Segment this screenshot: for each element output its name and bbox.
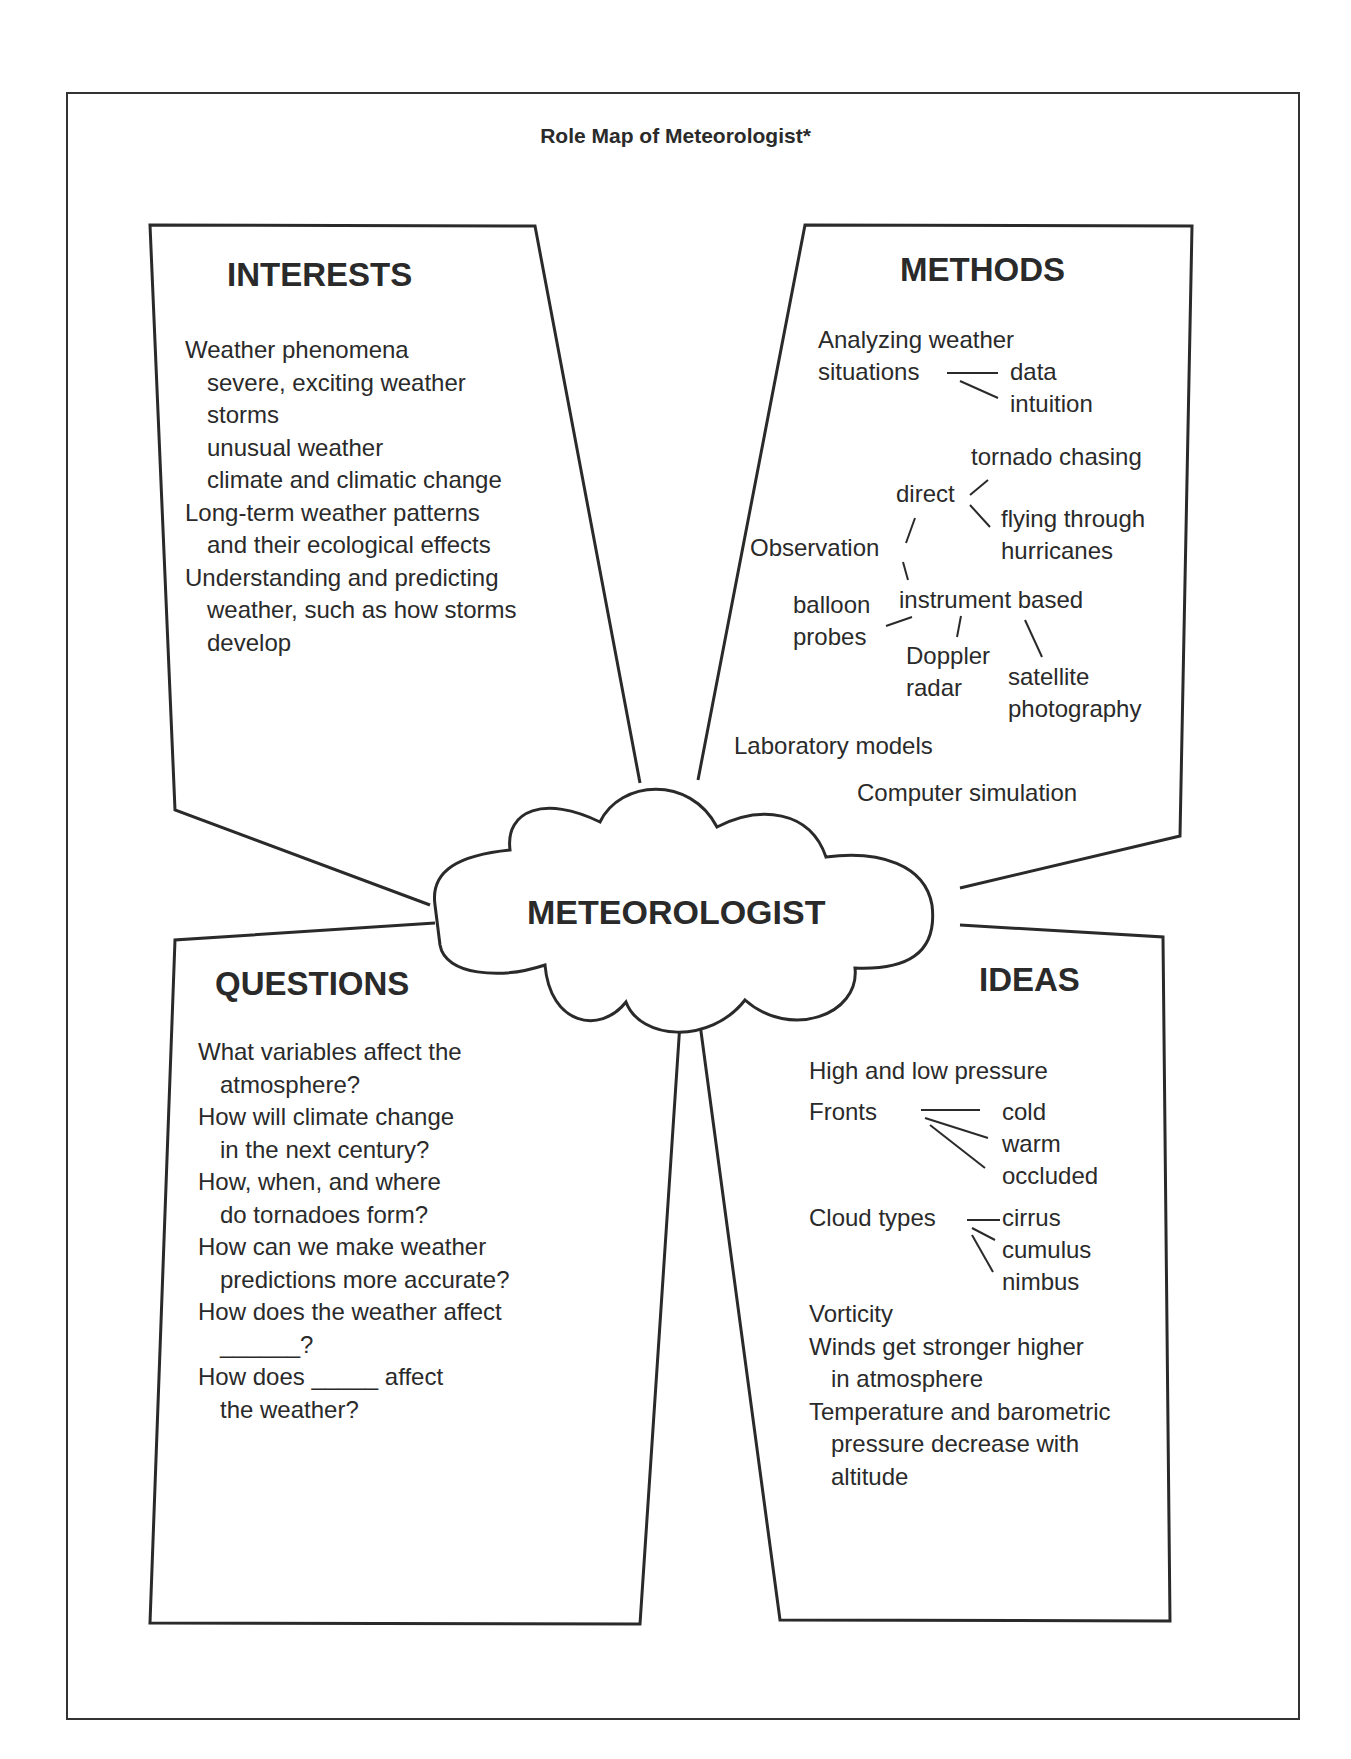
interests-line: develop: [185, 627, 516, 660]
methods-satellite-1: satellite: [1008, 661, 1089, 694]
methods-flying-1: flying through: [1001, 503, 1145, 536]
interests-heading: INTERESTS: [227, 256, 412, 294]
ideas-occluded: occluded: [1002, 1160, 1098, 1193]
ideas-list: VorticityWinds get stronger higherin atm…: [809, 1298, 1110, 1493]
interests-line: Understanding and predicting: [185, 562, 516, 595]
methods-data: data: [1010, 356, 1057, 389]
interests-line: unusual weather: [185, 432, 516, 465]
ideas-cloud-types: Cloud types: [809, 1202, 936, 1235]
methods-balloon-1: balloon: [793, 589, 870, 622]
questions-line: How can we make weather: [198, 1231, 509, 1264]
methods-doppler-2: radar: [906, 672, 962, 705]
questions-heading: QUESTIONS: [215, 965, 409, 1003]
ideas-cold: cold: [1002, 1096, 1046, 1129]
questions-line: What variables affect the: [198, 1036, 509, 1069]
interests-line: weather, such as how storms: [185, 594, 516, 627]
ideas-pressure: High and low pressure: [809, 1055, 1048, 1088]
questions-line: How does the weather affect: [198, 1296, 509, 1329]
methods-instrument: instrument based: [899, 584, 1083, 617]
ideas-cumulus: cumulus: [1002, 1234, 1091, 1267]
diagram-shapes: [0, 0, 1351, 1759]
methods-satellite-2: photography: [1008, 693, 1141, 726]
ideas-line: pressure decrease with: [809, 1428, 1110, 1461]
ideas-nimbus: nimbus: [1002, 1266, 1079, 1299]
ideas-cirrus: cirrus: [1002, 1202, 1061, 1235]
ideas-heading: IDEAS: [979, 961, 1080, 999]
ideas-line: Temperature and barometric: [809, 1396, 1110, 1429]
questions-line: in the next century?: [198, 1134, 509, 1167]
ideas-warm: warm: [1002, 1128, 1061, 1161]
methods-analyzing-2: situations: [818, 356, 919, 389]
ideas-panel: [700, 925, 1170, 1621]
methods-intuition: intuition: [1010, 388, 1093, 421]
methods-observation: Observation: [750, 532, 879, 565]
questions-list: What variables affect theatmosphere?How …: [198, 1036, 509, 1426]
interests-line: Weather phenomena: [185, 334, 516, 367]
methods-flying-2: hurricanes: [1001, 535, 1113, 568]
questions-line: ______?: [198, 1329, 509, 1362]
questions-line: How will climate change: [198, 1101, 509, 1134]
ideas-fronts: Fronts: [809, 1096, 877, 1129]
ideas-connectors: [921, 1110, 1000, 1272]
ideas-line: altitude: [809, 1461, 1110, 1494]
questions-line: How, when, and where: [198, 1166, 509, 1199]
ideas-line: in atmosphere: [809, 1363, 1110, 1396]
center-label: METEOROLOGIST: [527, 893, 825, 932]
questions-line: predictions more accurate?: [198, 1264, 509, 1297]
methods-balloon-2: probes: [793, 621, 866, 654]
questions-line: atmosphere?: [198, 1069, 509, 1102]
methods-heading: METHODS: [900, 251, 1065, 289]
interests-line: Long-term weather patterns: [185, 497, 516, 530]
methods-lab-models: Laboratory models: [734, 730, 933, 763]
questions-line: do tornadoes form?: [198, 1199, 509, 1232]
methods-doppler-1: Doppler: [906, 640, 990, 673]
ideas-line: Vorticity: [809, 1298, 1110, 1331]
interests-line: and their ecological effects: [185, 529, 516, 562]
interests-line: severe, exciting weather: [185, 367, 516, 400]
methods-computer-sim: Computer simulation: [857, 777, 1077, 810]
interests-line: storms: [185, 399, 516, 432]
questions-line: the weather?: [198, 1394, 509, 1427]
interests-line: climate and climatic change: [185, 464, 516, 497]
methods-tornado-chasing: tornado chasing: [971, 441, 1142, 474]
ideas-line: Winds get stronger higher: [809, 1331, 1110, 1364]
methods-analyzing-1: Analyzing weather: [818, 324, 1014, 357]
interests-list: Weather phenomenasevere, exciting weathe…: [185, 334, 516, 659]
methods-direct: direct: [896, 478, 955, 511]
questions-line: How does _____ affect: [198, 1361, 509, 1394]
page-title: Role Map of Meteorologist*: [0, 124, 1351, 148]
